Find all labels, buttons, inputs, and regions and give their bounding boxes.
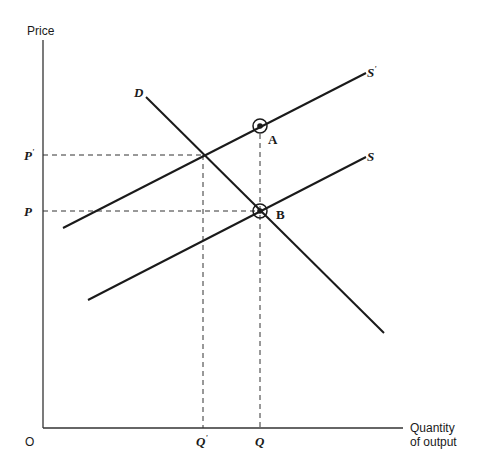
point-a-marker bbox=[253, 119, 267, 133]
point-a-label: A bbox=[268, 132, 278, 147]
point-b-label: B bbox=[276, 207, 285, 222]
curve-label-d: D bbox=[133, 85, 144, 100]
supply-demand-diagram: Price O Quantity of output P' P Q' Q S' … bbox=[0, 0, 479, 472]
x-axis-label-line2: of output bbox=[410, 435, 457, 449]
curve-label-s: S bbox=[367, 149, 374, 164]
y-axis-label: Price bbox=[27, 24, 55, 38]
price-label-p-prime: P' bbox=[24, 148, 35, 163]
quantity-label-q-prime: Q' bbox=[196, 434, 208, 449]
price-label-p: P bbox=[24, 204, 33, 219]
origin-label: O bbox=[25, 435, 34, 449]
quantity-label-q: Q bbox=[255, 434, 265, 449]
x-axis-label-line1: Quantity bbox=[410, 421, 455, 435]
curve-label-s-prime: S' bbox=[367, 65, 377, 80]
supply-curve-shifted bbox=[63, 73, 366, 228]
